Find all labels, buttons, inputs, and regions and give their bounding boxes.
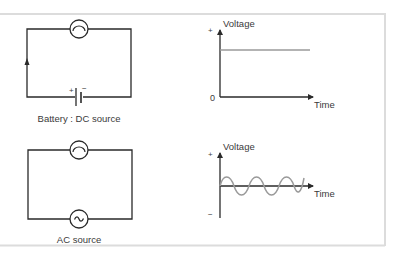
dc-circuit-wire [27,29,131,97]
dc-x-axis-label: Time [314,99,335,110]
ac-circuit-wire [28,150,132,219]
dc-voltage-graph: Voltage + 0 Time [208,18,335,110]
battery-plus-sign: + [69,86,74,95]
battery-minus-sign: − [82,84,87,93]
battery-icon [76,88,81,106]
ac-y-axis-label: Voltage [223,141,255,152]
current-direction-arrow-icon [25,58,30,65]
ac-x-axis-label: Time [314,188,335,199]
ac-circuit-label: AC source [57,234,101,245]
dc-vs-ac-diagram: + − Battery : DC source Voltage + 0 Time… [0,0,407,253]
lamp-icon [70,20,88,38]
ac-source-icon [70,210,88,228]
ac-voltage-graph: Voltage + − Time [208,141,335,219]
dc-y-plus-sign: + [208,26,213,35]
ac-y-minus-sign: − [208,210,213,219]
frame [0,13,385,246]
lamp-icon [70,141,88,159]
ac-circuit: AC source [28,141,132,245]
dc-circuit-label: Battery : DC source [38,113,121,124]
dc-y-zero-label: 0 [210,93,215,103]
dc-circuit: + − Battery : DC source [25,20,132,124]
dc-y-axis-label: Voltage [223,18,255,29]
ac-y-plus-sign: + [208,150,213,159]
